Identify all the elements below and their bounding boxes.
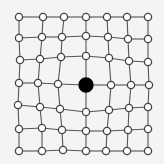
lattice-node <box>34 79 41 86</box>
lattice-node <box>144 125 151 132</box>
lattice-node <box>103 127 110 134</box>
lattice-node <box>125 104 132 111</box>
lattice-node <box>57 53 64 60</box>
lattice-node <box>102 147 109 154</box>
lattice-node <box>103 13 110 20</box>
lattice-node <box>15 34 22 41</box>
lattice-node <box>39 13 46 20</box>
lattice-node <box>38 33 45 40</box>
lattice-diagram <box>0 0 164 164</box>
center-defect-node <box>79 78 93 92</box>
lattice-node <box>144 35 151 42</box>
lattice-node <box>54 80 61 87</box>
lattice-node <box>82 108 89 115</box>
lattice-node <box>15 147 22 154</box>
lattice-node <box>15 13 22 20</box>
lattice-node <box>145 81 152 88</box>
lattice-node <box>144 147 151 154</box>
lattice-node <box>144 103 151 110</box>
lattice-node <box>82 13 89 20</box>
lattice-node <box>104 33 111 40</box>
lattice-node <box>124 35 131 42</box>
lattice-node <box>105 54 112 61</box>
lattice-node <box>14 101 21 108</box>
lattice-node <box>38 124 45 131</box>
lattice-node <box>82 32 89 39</box>
lattice-node <box>56 105 63 112</box>
lattice-grid <box>0 0 164 164</box>
lattice-node <box>125 57 132 64</box>
lattice-node <box>36 55 43 62</box>
lattice-node <box>58 126 65 133</box>
lattice-node <box>36 103 43 110</box>
lattice-node <box>144 13 151 20</box>
lattice-node <box>16 56 23 63</box>
lattice-node <box>82 147 89 154</box>
lattice-node <box>15 125 22 132</box>
lattice-node <box>144 58 151 65</box>
lattice-node <box>15 79 22 86</box>
lattice-node <box>38 147 45 154</box>
lattice-node <box>59 146 66 153</box>
lattice-node <box>123 147 130 154</box>
lattice-node <box>107 81 114 88</box>
lattice-node <box>127 81 134 88</box>
lattice-node <box>124 126 131 133</box>
lattice-node <box>58 33 65 40</box>
lattice-node <box>60 13 67 20</box>
lattice-node <box>82 127 89 134</box>
lattice-node <box>123 13 130 20</box>
lattice-node <box>82 52 89 59</box>
lattice-node <box>105 106 112 113</box>
lattice-nodes <box>14 13 152 154</box>
